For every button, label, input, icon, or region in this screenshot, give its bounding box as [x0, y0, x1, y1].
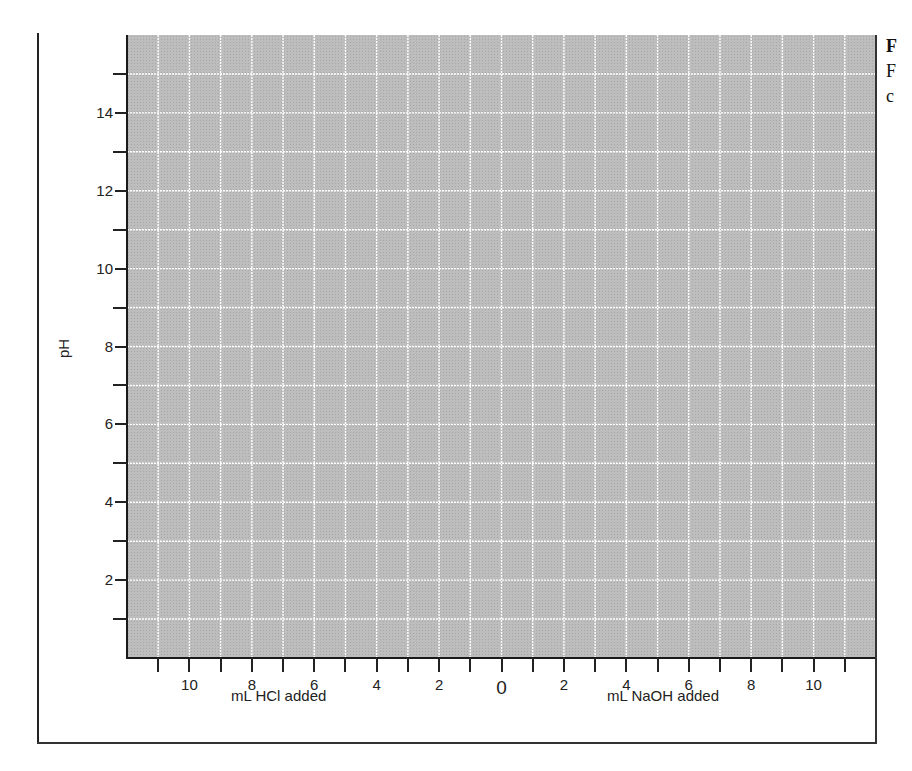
x-tick — [532, 658, 534, 672]
y-tick — [115, 501, 127, 503]
y-tick-label: 4 — [83, 493, 113, 510]
caption-line-1: F — [886, 34, 897, 59]
x-tick — [469, 658, 471, 672]
y-tick — [113, 229, 127, 231]
y-tick — [115, 423, 127, 425]
x-axis-label-hcl: mL HCl added — [231, 687, 326, 704]
y-tick-label: 8 — [83, 338, 113, 355]
x-tick — [344, 658, 346, 672]
figure-caption: F F c — [886, 34, 897, 109]
x-tick — [251, 658, 253, 672]
x-tick — [407, 658, 409, 672]
x-tick-label: 4 — [362, 676, 392, 693]
x-tick — [157, 658, 159, 672]
x-tick — [719, 658, 721, 672]
x-tick-label: 8 — [736, 676, 766, 693]
x-tick — [625, 658, 627, 672]
y-tick-label: 14 — [83, 104, 113, 121]
x-tick — [844, 658, 846, 672]
x-tick-label-zero: 0 — [487, 677, 517, 699]
y-tick — [115, 579, 127, 581]
x-tick — [501, 658, 503, 672]
y-tick — [113, 151, 127, 153]
x-tick — [594, 658, 596, 672]
x-tick — [813, 658, 815, 672]
y-tick — [115, 268, 127, 270]
figure-frame-left — [37, 33, 39, 744]
x-tick — [282, 658, 284, 672]
x-tick — [188, 658, 190, 672]
y-tick — [115, 190, 127, 192]
y-tick — [115, 112, 127, 114]
y-tick — [113, 73, 127, 75]
y-tick-label: 2 — [83, 571, 113, 588]
y-tick — [115, 346, 127, 348]
x-tick — [688, 658, 690, 672]
x-tick — [220, 658, 222, 672]
x-axis-label-naoh: mL NaOH added — [607, 687, 719, 704]
figure-frame-bottom — [37, 742, 877, 744]
y-tick — [113, 462, 127, 464]
y-tick — [113, 618, 127, 620]
y-tick — [113, 307, 127, 309]
x-tick-label: 2 — [424, 676, 454, 693]
y-tick-label: 10 — [83, 260, 113, 277]
x-tick — [313, 658, 315, 672]
x-tick-label: 10 — [174, 676, 204, 693]
y-tick — [113, 384, 127, 386]
x-tick-label: 10 — [799, 676, 829, 693]
x-tick — [781, 658, 783, 672]
caption-line-3: c — [886, 84, 897, 109]
y-tick-label: 12 — [83, 182, 113, 199]
y-tick — [113, 540, 127, 542]
grid-lines — [127, 35, 876, 658]
x-tick — [376, 658, 378, 672]
y-tick-label: 6 — [83, 415, 113, 432]
caption-line-2: F — [886, 59, 897, 84]
y-axis-label: pH — [55, 334, 72, 364]
x-tick — [657, 658, 659, 672]
x-tick-label: 2 — [549, 676, 579, 693]
x-tick — [750, 658, 752, 672]
plot-border-right — [875, 35, 877, 744]
x-tick — [563, 658, 565, 672]
x-tick — [438, 658, 440, 672]
